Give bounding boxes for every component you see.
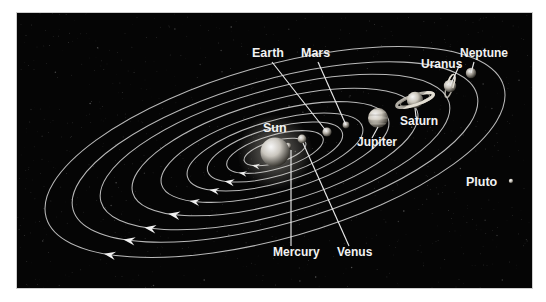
planet-sun [261, 138, 290, 167]
jupiter-band [368, 115, 388, 116]
label-uranus: Uranus [421, 57, 463, 71]
solar-system-figure: EarthMarsUranusNeptuneSunJupiterSaturnPl… [0, 0, 546, 302]
planet-disc-venus [298, 135, 307, 144]
label-saturn: Saturn [400, 114, 438, 128]
planet-jupiter [368, 108, 388, 128]
label-pluto: Pluto [466, 175, 498, 189]
planet-disc-pluto [509, 179, 513, 183]
jupiter-band [368, 117, 388, 118]
label-earth: Earth [252, 46, 284, 60]
planet-venus [298, 135, 307, 144]
jupiter-band [368, 120, 388, 121]
jupiter-band [368, 112, 388, 113]
label-jupiter: Jupiter [357, 135, 397, 149]
label-neptune: Neptune [460, 46, 508, 60]
solar-system-canvas: EarthMarsUranusNeptuneSunJupiterSaturnPl… [0, 0, 546, 302]
planet-pluto [509, 179, 513, 183]
label-mars: Mars [301, 46, 330, 60]
label-mercury: Mercury [273, 245, 320, 259]
label-venus: Venus [337, 245, 373, 259]
starfield-panel: EarthMarsUranusNeptuneSunJupiterSaturnPl… [17, 4, 532, 301]
planet-disc-sun [261, 138, 290, 167]
jupiter-band [368, 123, 388, 124]
label-sun: Sun [263, 121, 287, 135]
